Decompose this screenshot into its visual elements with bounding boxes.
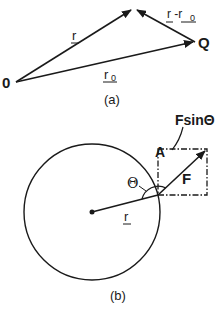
point-a-label: A — [155, 144, 165, 160]
force-label: F — [182, 170, 191, 187]
component-leader — [172, 127, 183, 150]
origin-label: 0 — [2, 74, 10, 91]
component-label: FsinΘ — [175, 112, 215, 128]
vector-diff-label: r -r — [167, 7, 182, 21]
angle-arc — [142, 186, 166, 199]
angle-leader — [139, 186, 146, 191]
vector-r0-label: r — [104, 67, 109, 82]
caption-a: (a) — [104, 92, 120, 107]
angle-label: Θ — [127, 175, 138, 191]
point-q-label: Q — [198, 34, 210, 51]
vector-r-label: r — [72, 28, 77, 43]
radius-label: r — [124, 209, 129, 224]
caption-b: (b) — [110, 288, 126, 303]
vector-diagram: 0 Q r r 0 r -r 0 (a) FsinΘ A F Θ r (b) — [0, 0, 223, 311]
diagram-b: FsinΘ A F Θ r (b) — [24, 112, 215, 303]
vector-r — [16, 10, 131, 82]
vector-r-minus-r0 — [137, 10, 195, 42]
diagram-a: 0 Q r r 0 r -r 0 (a) — [2, 7, 210, 107]
